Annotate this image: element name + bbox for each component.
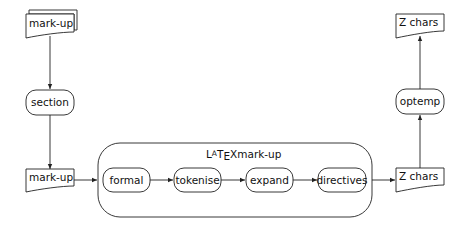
group-label-suffix: mark-up — [237, 148, 282, 160]
node-label: Z chars — [399, 170, 438, 182]
node-label: mark-up — [29, 171, 74, 183]
node-label: expand — [250, 174, 289, 186]
node-label: directives — [316, 174, 367, 186]
flowchart-canvas: mark-up section mark-up LATEXmark-up for… — [0, 0, 469, 230]
node-tokenise: tokenise — [174, 168, 221, 192]
node-zchars-top: Z chars — [396, 14, 444, 38]
node-markup-top: mark-up — [26, 10, 77, 38]
node-section: section — [26, 90, 74, 115]
group-label: LATEXmark-up — [206, 148, 282, 162]
node-formal: formal — [103, 168, 150, 192]
node-label: optemp — [400, 95, 441, 107]
node-label: section — [31, 96, 69, 108]
node-expand: expand — [246, 168, 293, 192]
node-directives: directives — [316, 168, 367, 192]
node-label: tokenise — [175, 174, 219, 186]
node-optemp: optemp — [396, 89, 444, 114]
node-label: Z chars — [399, 16, 438, 28]
latex-logo: LATEX — [206, 148, 237, 162]
node-zchars-bottom: Z chars — [396, 168, 444, 192]
node-markup-bottom: mark-up — [26, 169, 74, 192]
node-label: mark-up — [29, 17, 74, 29]
node-label: formal — [110, 174, 144, 186]
